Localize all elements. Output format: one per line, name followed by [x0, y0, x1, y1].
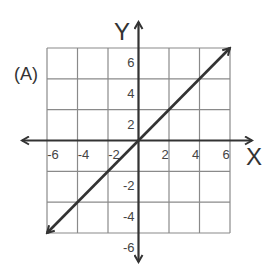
panel-label: (A) — [14, 64, 38, 84]
y-tick-label: 6 — [127, 55, 134, 70]
x-tick-label: 2 — [161, 147, 168, 162]
x-tick-label: -6 — [47, 147, 59, 162]
y-tick-label: 2 — [127, 117, 134, 132]
x-axis-label: X — [246, 143, 262, 170]
y-tick-label: -2 — [123, 178, 135, 193]
y-tick-label: 4 — [127, 86, 134, 101]
x-tick-label: -2 — [108, 147, 120, 162]
y-tick-label: -6 — [123, 240, 135, 255]
y-tick-label: -4 — [123, 209, 135, 224]
x-tick-label: 4 — [192, 147, 199, 162]
x-tick-label: -4 — [78, 147, 90, 162]
y-axis-label: Y — [114, 18, 130, 45]
coordinate-graph: -6-4-2246642-2-4-6 X Y (A) — [0, 0, 270, 277]
x-tick-label: 6 — [222, 147, 229, 162]
